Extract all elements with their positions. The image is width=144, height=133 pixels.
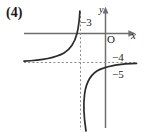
y-axis-label: y bbox=[99, 5, 103, 15]
figure-number-label: (4) bbox=[6, 6, 22, 20]
figure-container: (4) −3 −4 −5 O x y bbox=[0, 0, 144, 133]
origin-label: O bbox=[107, 34, 115, 45]
curve-right-branch bbox=[84, 63, 137, 131]
curve-left-branch bbox=[24, 11, 80, 61]
y-asymptote-tick-label: −4 bbox=[112, 52, 124, 63]
x-axis-label: x bbox=[131, 30, 136, 41]
x-asymptote-tick-label: −3 bbox=[80, 17, 92, 28]
y-intercept-tick-label: −5 bbox=[112, 69, 124, 80]
